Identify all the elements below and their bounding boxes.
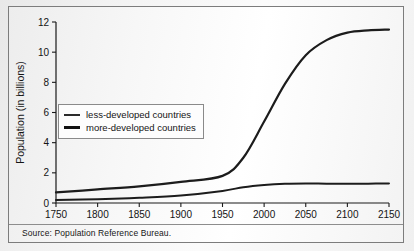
svg-text:2050: 2050 [295,209,318,220]
svg-text:1900: 1900 [170,209,193,220]
legend-label-more-developed: more-developed countries [86,121,196,134]
legend-swatch-icon-less-developed [64,114,80,116]
svg-text:1750: 1750 [45,209,68,220]
svg-text:2: 2 [43,167,49,178]
legend-item-less-developed: less-developed countries [64,108,196,121]
legend-label-less-developed: less-developed countries [86,108,191,121]
y-axis-label: Population (in billions) [14,61,26,164]
figure-container: 0246810121750180018501900195020002050210… [0,0,414,251]
y-axis-title: Population (in billions) [14,61,26,164]
source-note: Source: Population Reference Bureau. [22,228,171,238]
svg-text:1850: 1850 [128,209,151,220]
series-path-more-developed-countries [56,183,389,200]
svg-text:0: 0 [43,198,49,209]
svg-text:12: 12 [38,17,50,28]
svg-text:2000: 2000 [253,209,276,220]
svg-text:2100: 2100 [336,209,359,220]
svg-text:4: 4 [43,137,49,148]
svg-text:1800: 1800 [87,209,110,220]
legend-swatch-icon-more-developed [64,126,80,129]
svg-text:2150: 2150 [378,209,401,220]
source-divider [9,224,403,225]
legend-item-more-developed: more-developed countries [64,121,196,134]
chart-legend: less-developed countries more-developed … [58,104,204,139]
svg-text:10: 10 [38,47,50,58]
svg-text:1950: 1950 [211,209,234,220]
svg-text:6: 6 [43,107,49,118]
svg-text:8: 8 [43,77,49,88]
